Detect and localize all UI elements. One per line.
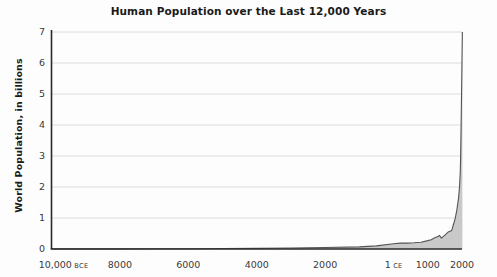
- plot-area: [0, 0, 497, 277]
- population-area-fill: [52, 32, 463, 249]
- gridlines: [52, 32, 463, 218]
- population-line: [52, 32, 463, 249]
- population-chart: Human Population over the Last 12,000 Ye…: [0, 0, 497, 277]
